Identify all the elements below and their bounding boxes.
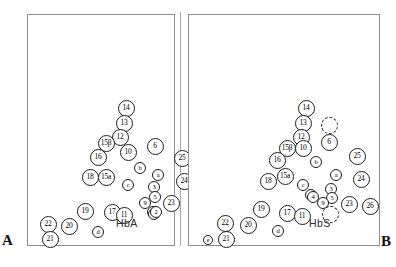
node-11: 11 [294,208,311,225]
node-16: 16 [269,152,286,169]
node-b: b [134,162,146,174]
node-19: 19 [253,201,270,218]
panel-a-caption: HbA [116,217,138,229]
node-14: 14 [298,100,315,117]
node-25: 25 [349,148,366,165]
panel-a-plot-area: 14131215β1016625b1815aa24c35923261917111… [28,15,174,245]
node-20: 20 [240,217,257,234]
node-18: 18 [82,169,99,186]
node-21: 21 [218,231,235,248]
node-19: 19 [77,203,94,220]
node-empty-dashed [321,117,338,134]
panel-b-caption: HbS [309,217,331,229]
node-22: 22 [217,215,234,232]
node-10: 10 [120,144,137,161]
node-26: 26 [362,198,379,215]
node-b: b [310,156,322,168]
node-16: 16 [90,149,107,166]
panel-divider [180,12,181,246]
node-a: a [152,169,164,181]
panel-b-plot-area: 141312615β102516b15aa1824c31459232619171… [189,15,379,245]
panel-b-letter: B [381,233,391,250]
node-c: c [122,179,134,191]
node-d: d [272,225,284,237]
node-a: a [330,169,342,181]
node-6: 6 [321,134,338,151]
node-18: 18 [260,173,277,190]
node-22: 22 [40,216,57,233]
figure-root: 14131215β1016625b1815aa24c35923261917111… [0,0,396,267]
node-20: 20 [61,218,78,235]
node-e: e [203,235,213,245]
node-21: 21 [42,231,59,248]
panel-a: 14131215β1016625b1815aa24c35923261917111… [27,14,175,246]
node-24: 24 [353,171,370,188]
node-15a: 15a [277,168,294,185]
node-10: 10 [295,140,312,157]
panel-b: 141312615β102516b15aa1824c31459232619171… [188,14,380,246]
node-17: 17 [279,205,296,222]
node-14: 14 [118,100,135,117]
node-2: 2 [150,206,162,218]
node-d: d [92,226,104,238]
node-6: 6 [147,138,164,155]
panel-a-letter: A [2,232,13,249]
node-23: 23 [341,196,358,213]
node-15a: 15a [98,169,115,186]
node-23: 23 [163,195,180,212]
